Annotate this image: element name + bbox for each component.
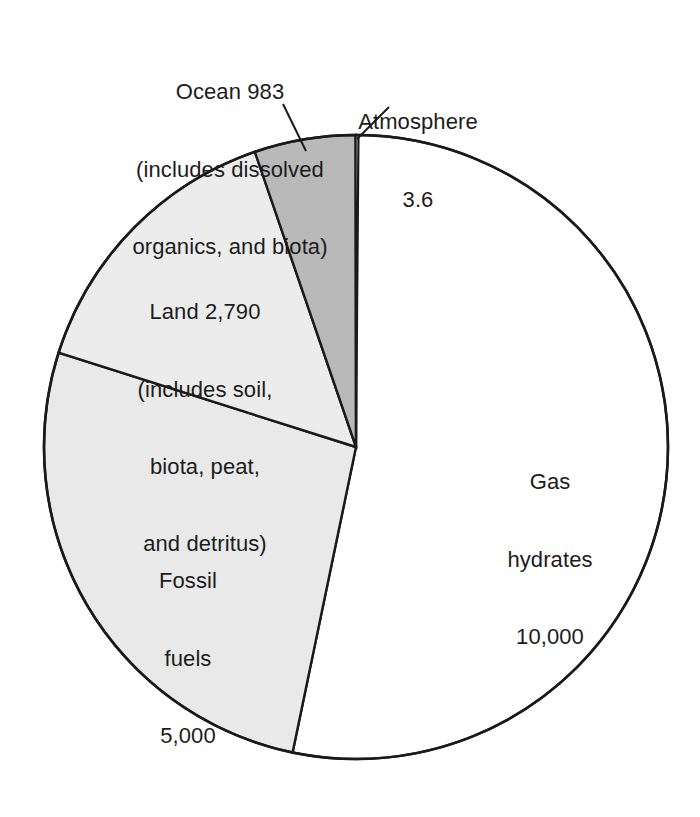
label-fossil-fuels: Fossil fuels 5,000 [113,517,263,800]
label-gas-hydrates: Gas hydrates 10,000 [470,418,630,701]
label-gas-line1: Gas [470,469,630,495]
label-ocean-line2: (includes dissolved [105,157,355,183]
pie-chart-figure: Ocean 983 (includes dissolved organics, … [0,0,700,817]
label-gas-line2: hydrates [470,547,630,573]
label-gas-line3: 10,000 [470,624,630,650]
label-land-line1: Land 2,790 [110,299,300,325]
label-land-line2: (includes soil, [110,377,300,403]
label-fossil-line1: Fossil [113,568,263,594]
label-ocean-line1: Ocean 983 [105,79,355,105]
label-fossil-line3: 5,000 [113,723,263,749]
label-atmosphere-line1: Atmosphere [340,109,496,135]
label-atmosphere: Atmosphere 3.6 [340,58,496,264]
label-fossil-line2: fuels [113,646,263,672]
label-atmosphere-line2: 3.6 [340,187,496,213]
label-land-line3: biota, peat, [110,454,300,480]
